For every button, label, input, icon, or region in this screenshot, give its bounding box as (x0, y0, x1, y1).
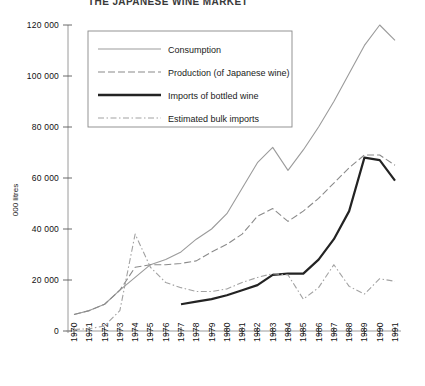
x-tick-label: 1970 (69, 322, 79, 342)
x-tick-label: 1983 (268, 322, 278, 342)
y-tick-label: 120 000 (27, 20, 59, 30)
x-tick-label: 1977 (176, 322, 186, 342)
x-axis: 1970197119721973197419751976197719781979… (66, 322, 401, 342)
x-tick-label: 1986 (314, 322, 324, 342)
x-tick-label: 1975 (145, 322, 155, 342)
x-tick-label: 1988 (344, 322, 354, 342)
x-tick-label: 1978 (191, 322, 201, 342)
x-tick-label: 1971 (84, 322, 94, 342)
chart-legend: ConsumptionProduction (of Japanese wine)… (88, 31, 292, 127)
x-tick-label: 1973 (115, 322, 125, 342)
x-tick-label: 1990 (375, 322, 385, 342)
x-tick-label: 1989 (359, 322, 369, 342)
x-tick-label: 1982 (252, 322, 262, 342)
x-tick-label: 1976 (161, 322, 171, 342)
chart-container: THE JAPANESE WINE MARKET 020 00040 00060… (0, 0, 425, 386)
x-tick-label: 1985 (298, 322, 308, 342)
legend-label-2: Imports of bottled wine (168, 91, 259, 101)
x-tick-label: 1981 (237, 322, 247, 342)
x-tick-label: 1979 (207, 322, 217, 342)
x-tick-label: 1987 (329, 322, 339, 342)
x-tick-label: 1974 (130, 322, 140, 342)
y-axis-label: 000 litres (11, 184, 20, 216)
line-chart-plot: 020 00040 00060 00080 000100 000120 0000… (0, 0, 425, 386)
x-tick-label: 1980 (222, 322, 232, 342)
y-tick-label: 80 000 (32, 122, 59, 132)
series-line-imports-of-bottled-wine (181, 158, 395, 305)
series-line-production-of-japanese-wine (74, 155, 395, 314)
legend-label-0: Consumption (168, 45, 221, 55)
y-tick-label: 0 (54, 326, 59, 336)
y-tick-label: 40 000 (32, 224, 59, 234)
y-tick-label: 100 000 (27, 71, 59, 81)
y-tick-label: 60 000 (32, 173, 59, 183)
x-tick-label: 1991 (390, 322, 400, 342)
series-line-estimated-bulk-imports (74, 234, 395, 329)
y-axis: 020 00040 00060 00080 000100 000120 0000… (11, 20, 72, 336)
legend-label-1: Production (of Japanese wine) (168, 68, 290, 78)
x-tick-label: 1972 (100, 322, 110, 342)
y-tick-label: 20 000 (32, 275, 59, 285)
x-tick-label: 1984 (283, 322, 293, 342)
legend-label-3: Estimated bulk imports (168, 114, 260, 124)
